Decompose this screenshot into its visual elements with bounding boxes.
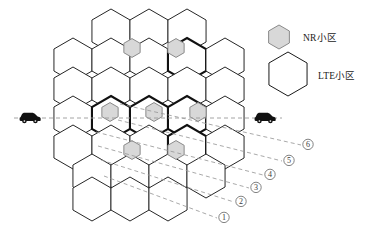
- callout-number: 2: [239, 197, 243, 206]
- legend-label-lte: LTE小区: [318, 71, 356, 81]
- nr-hexagon-swatch: [269, 25, 290, 49]
- callout-1: 1: [219, 212, 229, 222]
- figure-canvas: 123456 NR小区 LTE小区: [0, 0, 380, 241]
- callout-number: 4: [268, 170, 272, 179]
- hexagon-network-diagram: 123456 NR小区 LTE小区: [0, 0, 380, 241]
- callout-6: 6: [303, 139, 313, 149]
- car-right: [255, 113, 276, 124]
- lte-hexagon-swatch: [269, 52, 307, 96]
- nr-cell-hexagon: [168, 141, 184, 160]
- callout-number: 1: [222, 213, 226, 222]
- callout-2: 2: [236, 196, 246, 206]
- nr-cell-hexagon: [124, 141, 140, 160]
- callout-3: 3: [251, 182, 261, 192]
- legend-item-lte: LTE小区: [269, 52, 356, 96]
- callout-number: 6: [306, 140, 310, 149]
- legend: NR小区 LTE小区: [269, 25, 356, 96]
- legend-label-nr: NR小区: [303, 33, 337, 43]
- car-left: [20, 113, 41, 124]
- nr-cell-hexagon: [168, 39, 184, 58]
- nr-cell-hexagon: [190, 103, 206, 122]
- callout-number: 5: [287, 156, 291, 165]
- callout-5: 5: [284, 155, 294, 165]
- legend-item-nr: NR小区: [269, 25, 337, 49]
- nr-cell-hexagon: [102, 103, 118, 122]
- callout-number: 3: [254, 183, 258, 192]
- nr-cell-hexagon: [146, 103, 162, 122]
- callout-4: 4: [265, 169, 275, 179]
- nr-cell-hexagon: [124, 39, 140, 58]
